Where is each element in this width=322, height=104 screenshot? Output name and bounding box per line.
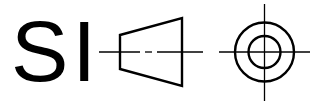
projection-symbol	[0, 0, 322, 104]
crosshair-lines	[219, 4, 310, 101]
